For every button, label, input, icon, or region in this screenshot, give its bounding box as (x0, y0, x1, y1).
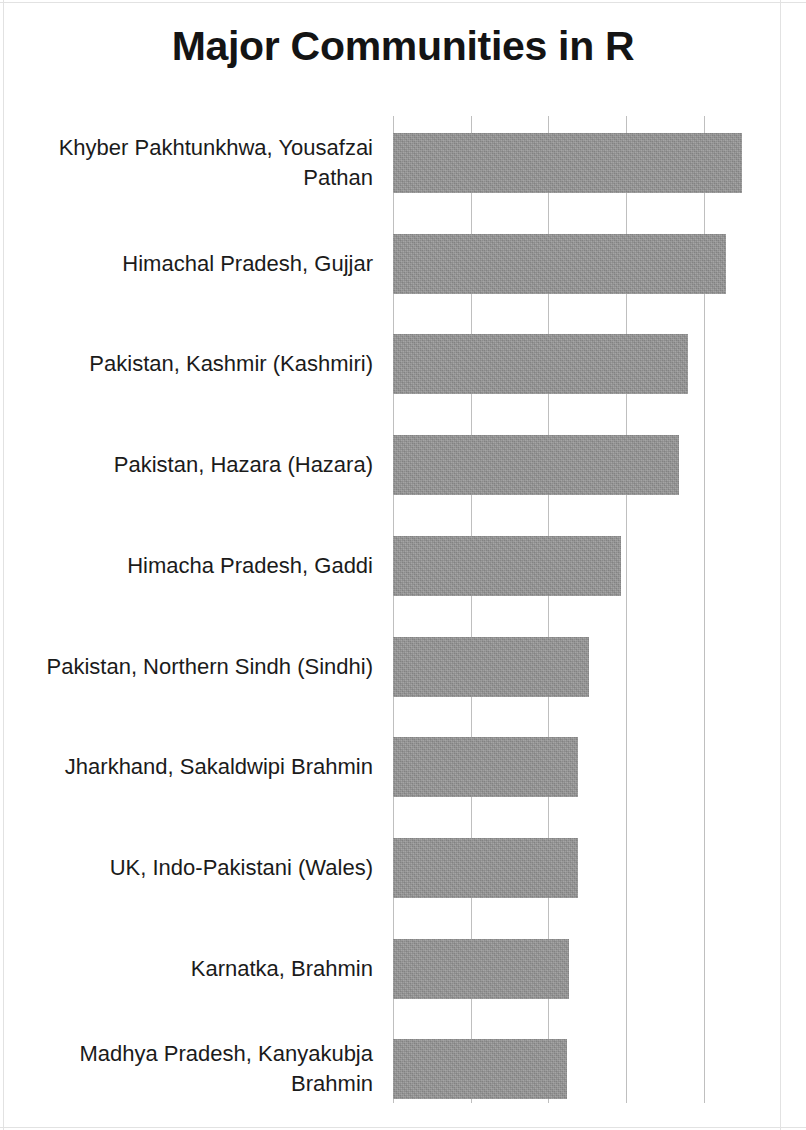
bar-row: Pakistan, Kashmir (Kashmiri) (0, 334, 806, 394)
bar[interactable] (393, 637, 589, 697)
bar-row: UK, Indo-Pakistani (Wales) (0, 838, 806, 898)
bar-category-label: Pakistan, Northern Sindh (Sindhi) (13, 652, 373, 682)
bar-category-label: Pakistan, Kashmir (Kashmiri) (13, 349, 373, 379)
bar[interactable] (393, 1039, 567, 1099)
bar-category-label: Pakistan, Hazara (Hazara) (13, 450, 373, 480)
bar-row: Himacha Pradesh, Gaddi (0, 536, 806, 596)
bar-row: Khyber Pakhtunkhwa, Yousafzai Pathan (0, 133, 806, 193)
bar-category-label: Madhya Pradesh, Kanyakubja Brahmin (13, 1039, 373, 1099)
bar-row: Karnatka, Brahmin (0, 939, 806, 999)
bar[interactable] (393, 334, 688, 394)
bar-category-label: Karnatka, Brahmin (13, 954, 373, 984)
bar-category-label: UK, Indo-Pakistani (Wales) (13, 853, 373, 883)
bar-chart-plot: Khyber Pakhtunkhwa, Yousafzai PathanHima… (0, 0, 806, 1130)
bar[interactable] (393, 536, 621, 596)
bar-row: Himachal Pradesh, Gujjar (0, 234, 806, 294)
bar-category-label: Himacha Pradesh, Gaddi (13, 551, 373, 581)
bar[interactable] (393, 234, 726, 294)
bar-category-label: Himachal Pradesh, Gujjar (13, 249, 373, 279)
chart-slide: Major Communities in R Khyber Pakhtunkhw… (0, 0, 806, 1130)
bar[interactable] (393, 737, 578, 797)
bar[interactable] (393, 133, 742, 193)
bar-row: Pakistan, Northern Sindh (Sindhi) (0, 637, 806, 697)
bar-category-label: Khyber Pakhtunkhwa, Yousafzai Pathan (13, 133, 373, 193)
bar-row: Jharkhand, Sakaldwipi Brahmin (0, 737, 806, 797)
bar-category-label: Jharkhand, Sakaldwipi Brahmin (13, 752, 373, 782)
bar[interactable] (393, 838, 578, 898)
bar[interactable] (393, 939, 569, 999)
bar-row: Pakistan, Hazara (Hazara) (0, 435, 806, 495)
bar[interactable] (393, 435, 679, 495)
bar-row: Madhya Pradesh, Kanyakubja Brahmin (0, 1039, 806, 1099)
